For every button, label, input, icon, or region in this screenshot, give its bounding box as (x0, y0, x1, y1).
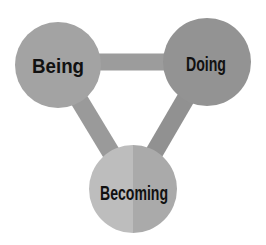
node-becoming: Becoming (89, 145, 177, 233)
node-doing: Doing (163, 18, 251, 106)
node-being: Being (15, 22, 101, 108)
doing-label: Doing (186, 52, 226, 75)
being-label: Being (32, 54, 84, 77)
being-doing-becoming-diagram: Being Doing Becoming (0, 0, 266, 245)
becoming-label: Becoming (100, 181, 168, 204)
